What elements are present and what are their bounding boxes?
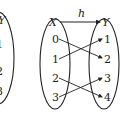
domain-element: 3 — [52, 91, 59, 104]
domain-element: 1 — [52, 53, 59, 66]
left-partial-set: Y 1 2 3 — [0, 12, 14, 104]
codomain-element: 3 — [104, 72, 111, 85]
left-set-label: Y — [0, 14, 7, 27]
codomain-element: 4 — [104, 91, 111, 104]
domain-element: 2 — [52, 72, 59, 85]
mapping-diagram: Y 1 2 3 X Y h 0 1 2 3 1 2 3 4 — [0, 0, 127, 114]
left-element: 1 — [0, 38, 3, 51]
codomain-element: 2 — [104, 53, 111, 66]
function-label: h — [78, 7, 85, 20]
left-element: 2 — [0, 65, 3, 78]
left-element: 3 — [0, 85, 3, 98]
domain-label: X — [48, 16, 58, 29]
domain-element: 0 — [52, 33, 59, 46]
codomain-element: 1 — [104, 33, 111, 46]
